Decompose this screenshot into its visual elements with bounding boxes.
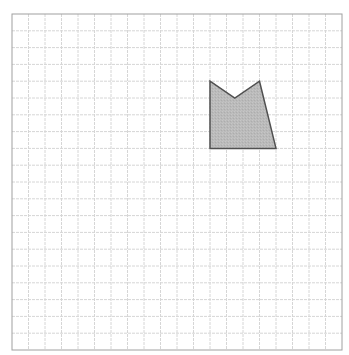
grid-lines — [12, 14, 342, 350]
grid-diagram — [0, 0, 349, 355]
